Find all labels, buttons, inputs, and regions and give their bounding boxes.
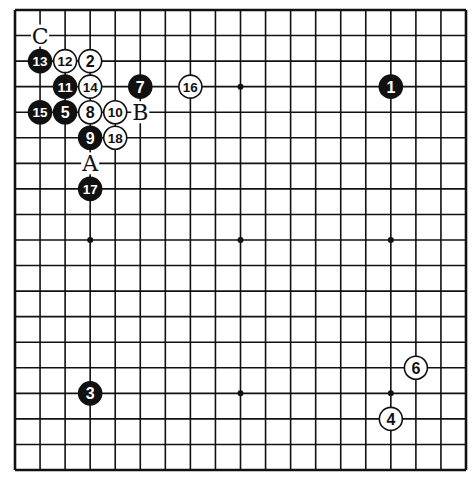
move-number: 11	[58, 80, 73, 95]
black-stone[interactable]: 5	[54, 101, 77, 124]
black-stone[interactable]: 9	[79, 126, 102, 149]
move-number: 14	[83, 80, 99, 95]
white-stone[interactable]: 6	[404, 356, 427, 379]
white-stone[interactable]: 16	[179, 75, 202, 98]
white-stone[interactable]: 10	[104, 101, 127, 124]
black-stone[interactable]: 3	[79, 382, 102, 405]
move-number: 13	[33, 54, 48, 69]
move-number: 17	[83, 182, 98, 197]
move-number: 1	[386, 79, 395, 96]
white-stone[interactable]: 4	[379, 407, 402, 430]
move-number: 6	[411, 360, 420, 377]
star-point	[87, 237, 93, 243]
black-stone[interactable]: 7	[129, 75, 152, 98]
go-board: ABC 123456789101112131415161718	[0, 0, 472, 494]
black-stone[interactable]: 15	[29, 101, 52, 124]
white-stone[interactable]: 8	[79, 101, 102, 124]
move-number: 2	[86, 53, 95, 70]
move-number: 7	[136, 79, 145, 96]
move-number: 5	[61, 104, 70, 121]
move-number: 4	[386, 411, 395, 428]
move-number: 16	[183, 80, 198, 95]
move-number: 15	[33, 105, 48, 120]
white-stone[interactable]: 14	[79, 75, 102, 98]
star-point	[238, 390, 244, 396]
move-number: 8	[86, 104, 95, 121]
black-stone[interactable]: 1	[379, 75, 402, 98]
star-point	[238, 237, 244, 243]
black-stone[interactable]: 13	[29, 50, 52, 73]
star-point	[238, 84, 244, 90]
point-label-b: B	[132, 100, 148, 125]
move-number: 9	[86, 130, 95, 147]
white-stone[interactable]: 18	[104, 126, 127, 149]
point-label-a: A	[81, 151, 99, 176]
star-point	[388, 237, 394, 243]
black-stone[interactable]: 11	[54, 75, 77, 98]
white-stone[interactable]: 12	[54, 50, 77, 73]
move-number: 12	[58, 54, 73, 69]
black-stone[interactable]: 17	[79, 177, 102, 200]
white-stone[interactable]: 2	[79, 50, 102, 73]
move-number: 10	[108, 105, 123, 120]
move-number: 18	[108, 131, 123, 146]
move-number: 3	[86, 385, 95, 402]
point-label-c: C	[32, 24, 49, 49]
star-point	[388, 390, 394, 396]
